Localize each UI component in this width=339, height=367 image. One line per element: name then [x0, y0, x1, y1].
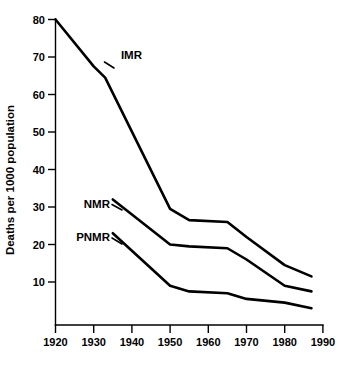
line-chart: Deaths per 1000 population 80 70 60 50 4…: [0, 0, 339, 367]
chart-figure: Deaths per 1000 population 80 70 60 50 4…: [0, 0, 339, 367]
y-tick-label-30: 30: [33, 201, 45, 213]
y-tick-label-10: 10: [33, 276, 45, 288]
series-label-imr: IMR: [121, 49, 143, 61]
series-line-pnmr: [113, 233, 312, 308]
x-tick-label-1970: 1970: [234, 336, 258, 348]
x-tick-label-1920: 1920: [43, 336, 67, 348]
x-tick-label-1950: 1950: [158, 336, 182, 348]
x-tick-label-1960: 1960: [196, 336, 220, 348]
x-tick-label-1940: 1940: [120, 336, 144, 348]
series-label-pnmr: PNMR: [76, 231, 111, 243]
y-tick-label-60: 60: [33, 89, 45, 101]
y-tick-label-50: 50: [33, 126, 45, 138]
y-tick-label-20: 20: [33, 239, 45, 251]
y-tick-label-80: 80: [33, 14, 45, 26]
series-line-nmr: [113, 200, 312, 292]
series-label-nmr: NMR: [84, 198, 111, 210]
y-tick-label-40: 40: [33, 164, 45, 176]
leader-line-imr: [105, 62, 115, 68]
y-tick-label-70: 70: [33, 51, 45, 63]
x-tick-label-1990: 1990: [311, 336, 335, 348]
y-axis-title: Deaths per 1000 population: [4, 105, 16, 255]
x-tick-label-1930: 1930: [81, 336, 105, 348]
x-tick-label-1980: 1980: [272, 336, 296, 348]
